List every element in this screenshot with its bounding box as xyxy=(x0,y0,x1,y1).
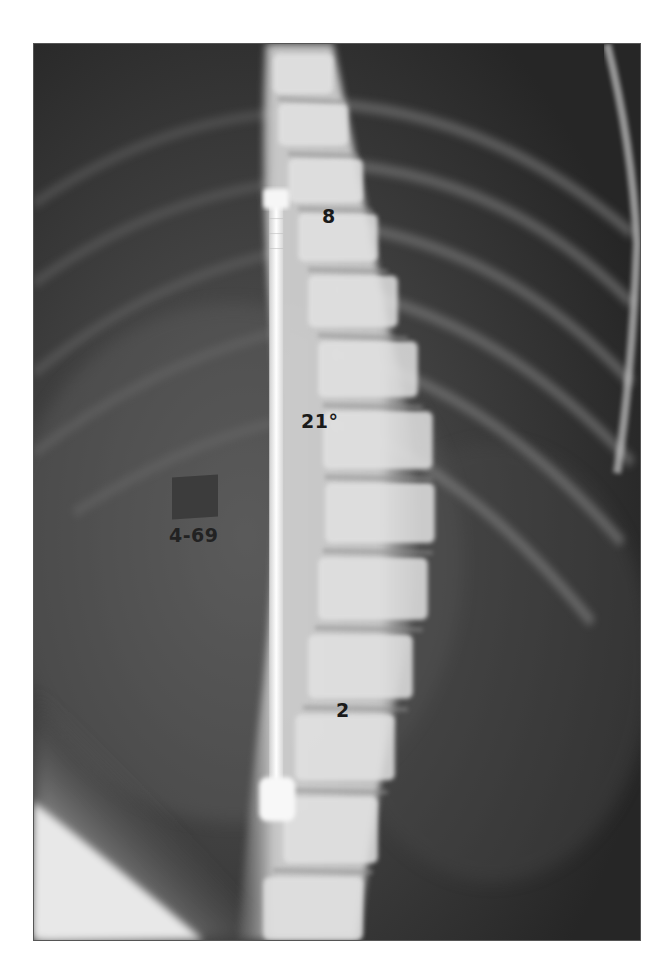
curve-label-upper: 8 xyxy=(322,205,336,227)
curve-label-middle: 21° xyxy=(301,410,338,432)
xray-scene xyxy=(34,44,640,940)
date-marker-square xyxy=(172,474,218,519)
date-marker-label: 4-69 xyxy=(169,524,219,546)
curve-label-lower: 2 xyxy=(336,699,350,721)
xray-image: 8 21° 4-69 2 xyxy=(33,43,641,941)
